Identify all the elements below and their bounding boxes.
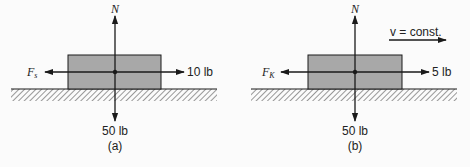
panel-caption: (a): [108, 139, 123, 153]
applied-force-label: 5 lb: [432, 65, 452, 79]
ground-hatch: [11, 89, 217, 101]
applied-force-label: 10 lb: [187, 65, 213, 79]
weight-label: 50 lb: [342, 124, 368, 138]
panel-b: N FK 5 lb v = const. 50 lb (b): [251, 2, 457, 153]
friction-label-sub: K: [268, 71, 275, 80]
weight-label: 50 lb: [102, 124, 128, 138]
center-of-mass-dot: [353, 70, 357, 74]
friction-label: FK: [261, 65, 275, 80]
center-of-mass-dot: [113, 70, 117, 74]
friction-label: Fs: [26, 65, 37, 80]
velocity-label: v = const.: [390, 25, 442, 39]
ground-hatch: [251, 89, 457, 101]
panel-caption: (b): [348, 139, 363, 153]
normal-force-label: N: [110, 2, 120, 16]
normal-force-label: N: [350, 2, 360, 16]
friction-label-sub: s: [34, 71, 37, 80]
panel-a: N Fs 10 lb 50 lb (a): [11, 2, 217, 153]
free-body-diagrams: N Fs 10 lb 50 lb (a) N FK 5 lb v = const…: [0, 0, 470, 167]
